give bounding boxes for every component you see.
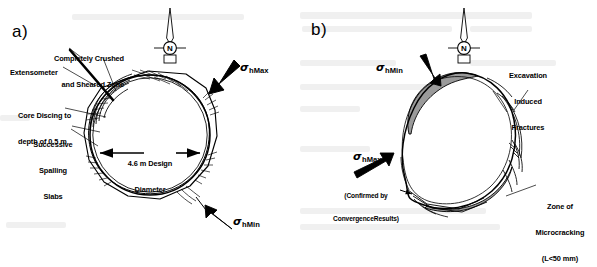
sigma-symbol: σ — [240, 61, 249, 74]
label-sigma-hmax-b: σhMax — [353, 146, 382, 164]
b-sigma-hmin-arrow — [420, 54, 441, 86]
a-compass-rose — [154, 8, 186, 63]
a-sigma-hmax-arrow — [209, 60, 240, 94]
label-extensometer: Extensometer — [10, 69, 58, 78]
label-micro-line1: Zone of — [530, 203, 590, 212]
label-micro-line3: (L<50 mm) — [530, 255, 590, 264]
label-sigma-hmin-a: σhMin — [233, 211, 260, 229]
sigma-symbol: σ — [376, 61, 385, 74]
sigma-symbol: σ — [353, 150, 362, 163]
sigma-subscript: hMax — [249, 66, 268, 75]
label-fractures-line2: Induced — [496, 98, 560, 107]
label-spalling-line3: Slabs — [18, 193, 88, 202]
label-spalling-slabs: Successive Spalling Slabs — [18, 124, 88, 218]
sigma-symbol: σ — [233, 215, 242, 228]
label-confirm-line1: (Confirmed by — [328, 192, 404, 200]
a-sigma-hmin-arrow — [205, 205, 232, 229]
label-diameter-line1: 4.6 m Design — [113, 160, 187, 169]
label-fractures-line3: Fractures — [496, 124, 560, 133]
label-spalling-line1: Successive — [18, 141, 88, 150]
label-confirm-line2: ConvergenceResults) — [328, 215, 404, 223]
label-design-diameter: 4.6 m Design Diameter — [113, 143, 187, 212]
label-confirmed-by-convergence: (Confirmed by ConvergenceResults) — [328, 177, 404, 238]
label-spalling-line2: Spalling — [18, 167, 88, 176]
sigma-subscript: hMin — [242, 220, 260, 229]
label-excavation-induced-fractures: Excavation Induced Fractures — [496, 55, 560, 149]
label-crushed-zone-line2: and Sheared Zone — [20, 81, 124, 90]
label-crushed-zone-line1: Completely Crushed — [20, 55, 124, 64]
label-micro-line2: Microcracking — [530, 229, 590, 238]
label-fractures-line1: Excavation — [496, 72, 560, 81]
b-compass-rose — [448, 8, 480, 63]
b-microcrack-shade-upper — [408, 73, 478, 134]
label-sigma-hmax-a: σhMax — [240, 57, 269, 75]
label-zone-of-microcracking: Zone of Microcracking (L<50 mm) — [530, 186, 590, 267]
label-core-discing-line1: Core Discing to — [18, 112, 71, 121]
sigma-subscript: hMax — [362, 155, 381, 164]
panel-b-label: b) — [311, 20, 327, 40]
label-sigma-hmin-b: σhMin — [376, 57, 403, 75]
sigma-subscript: hMin — [385, 66, 403, 75]
label-diameter-line2: Diameter — [113, 186, 187, 195]
